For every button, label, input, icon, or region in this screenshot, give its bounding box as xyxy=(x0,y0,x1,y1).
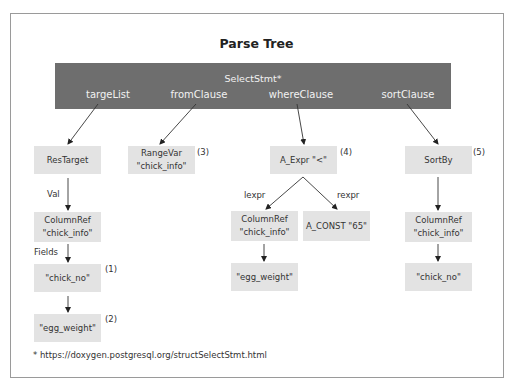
range-var-value: "chick_info" xyxy=(136,160,186,173)
annotation-4: (4) xyxy=(340,147,352,157)
left-egg-weight-node: "egg_weight" xyxy=(34,314,101,342)
annotation-2: (2) xyxy=(105,314,117,324)
right-column-ref-value: "chick_info" xyxy=(413,227,463,240)
field-whereclause: whereClause xyxy=(269,89,333,100)
range-var-label: RangeVar xyxy=(141,147,182,160)
field-sortclause: sortClause xyxy=(382,89,435,100)
sort-by-label: SortBy xyxy=(424,154,452,167)
res-target-label: ResTarget xyxy=(47,154,88,167)
a-expr-node: A_Expr "<" xyxy=(270,146,337,174)
res-target-node: ResTarget xyxy=(34,146,101,174)
left-column-ref-label: ColumnRef xyxy=(44,214,90,227)
field-targelist: targeList xyxy=(86,89,130,100)
mid-column-ref-value: "chick_info" xyxy=(239,226,289,239)
source-footnote: * https://doxygen.postgresql.org/structS… xyxy=(33,350,267,360)
edge-label-lexpr: lexpr xyxy=(244,190,265,200)
left-column-ref-value: "chick_info" xyxy=(42,227,92,240)
edge-label-fields: Fields xyxy=(34,247,58,257)
a-const-node: A_CONST "65" xyxy=(303,211,370,241)
mid-column-ref-node: ColumnRef "chick_info" xyxy=(231,211,298,241)
select-stmt-label: SelectStmt* xyxy=(55,73,451,84)
right-column-ref-node: ColumnRef "chick_info" xyxy=(405,212,472,242)
annotation-3: (3) xyxy=(197,147,209,157)
right-chick-no-label: "chick_no" xyxy=(416,271,461,284)
mid-egg-weight-node: "egg_weight" xyxy=(231,263,298,291)
left-chick-no-label: "chick_no" xyxy=(45,272,90,285)
left-column-ref-node: ColumnRef "chick_info" xyxy=(34,212,101,242)
a-expr-label: A_Expr "<" xyxy=(280,154,327,167)
right-column-ref-label: ColumnRef xyxy=(415,214,461,227)
mid-column-ref-label: ColumnRef xyxy=(241,213,287,226)
edge-label-val: Val xyxy=(47,189,60,199)
field-fromclause: fromClause xyxy=(171,89,228,100)
range-var-node: RangeVar "chick_info" xyxy=(128,146,195,174)
right-chick-no-node: "chick_no" xyxy=(405,263,472,291)
sort-by-node: SortBy xyxy=(405,146,472,174)
a-const-label: A_CONST "65" xyxy=(306,220,367,233)
left-chick-no-node: "chick_no" xyxy=(34,264,101,292)
select-stmt-node: SelectStmt* targeList fromClause whereCl… xyxy=(55,63,451,109)
mid-egg-weight-label: "egg_weight" xyxy=(236,271,293,284)
annotation-5: (5) xyxy=(473,147,485,157)
left-egg-weight-label: "egg_weight" xyxy=(39,322,96,335)
edge-label-rexpr: rexpr xyxy=(337,190,359,200)
annotation-1: (1) xyxy=(105,264,117,274)
diagram-title: Parse Tree xyxy=(0,36,513,51)
